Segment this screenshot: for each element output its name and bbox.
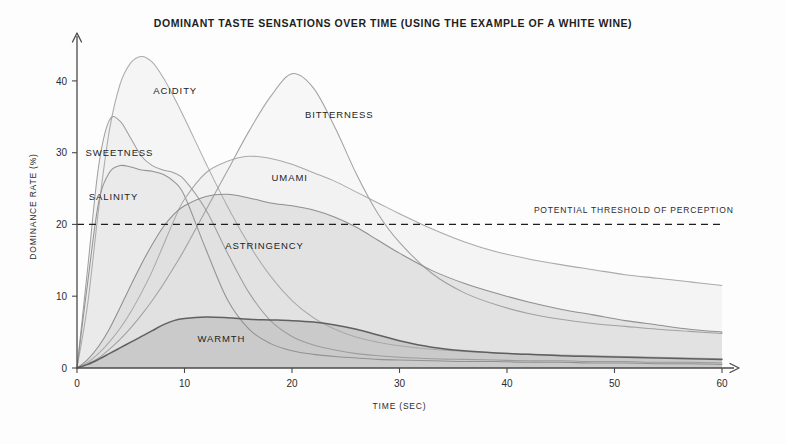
series-label-acidity: ACIDITY: [153, 85, 197, 96]
y-tick-label-10: 10: [56, 291, 68, 302]
chart-plot-area: POTENTIAL THRESHOLD OF PERCEPTION 010203…: [0, 0, 786, 444]
series-label-sweetness: SWEETNESS: [86, 147, 154, 158]
chart-container: DOMINANT TASTE SENSATIONS OVER TIME (USI…: [0, 0, 786, 444]
series-label-astringency: ASTRINGENCY: [225, 240, 304, 251]
x-tick-label-30: 30: [394, 378, 406, 389]
y-axis-title: DOMINANCE RATE (%): [28, 153, 38, 259]
x-tick-label-40: 40: [501, 378, 513, 389]
x-tick-label-50: 50: [609, 378, 621, 389]
x-tick-label-0: 0: [74, 378, 80, 389]
series-label-umami: UMAMI: [272, 172, 308, 183]
x-axis-title: TIME (SEC): [373, 401, 427, 411]
y-tick-label-20: 20: [56, 219, 68, 230]
x-tick-label-60: 60: [716, 378, 728, 389]
x-tick-label-10: 10: [179, 378, 191, 389]
y-tick-label-40: 40: [56, 76, 68, 87]
series-label-bitterness: BITTERNESS: [305, 109, 374, 120]
y-tick-label-0: 0: [61, 363, 67, 374]
y-tick-label-30: 30: [56, 147, 68, 158]
potential-threshold-of-perception-label: POTENTIAL THRESHOLD OF PERCEPTION: [534, 205, 734, 215]
x-tick-label-20: 20: [286, 378, 298, 389]
series-label-warmth: WARMTH: [197, 333, 245, 344]
series-label-salinity: SALINITY: [89, 191, 138, 202]
